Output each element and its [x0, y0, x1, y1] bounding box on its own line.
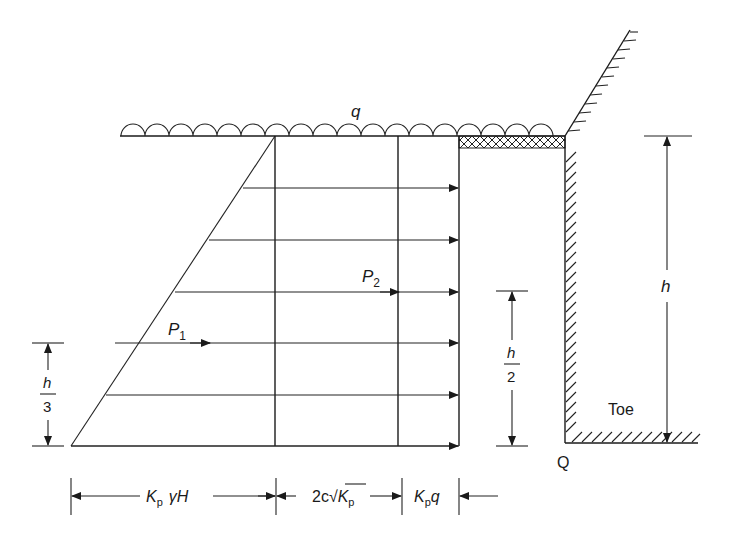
width-kp-gamma-h: KpγH	[146, 488, 189, 508]
point-q-label: Q	[557, 454, 569, 471]
pressure-distribution	[71, 136, 459, 446]
dimension-h-label: h	[661, 277, 670, 296]
p2-label: P2	[362, 267, 380, 290]
h-over-2-numerator: h	[507, 344, 515, 361]
passive-earth-pressure-diagram: q	[0, 0, 732, 540]
surcharge-load	[120, 124, 565, 136]
crosshatch-strip	[459, 136, 565, 148]
width-kp-q: Kpq	[414, 488, 440, 508]
p1-label: P1	[168, 320, 186, 343]
h-over-2-denominator: 2	[507, 368, 515, 385]
toe-label: Toe	[608, 401, 634, 418]
dimension-h-over-3	[32, 343, 64, 446]
h-over-3-denominator: 3	[43, 398, 51, 415]
toe-base-hatched	[565, 432, 700, 443]
h-over-3-numerator: h	[43, 374, 51, 391]
slope-ground	[565, 30, 638, 136]
wall-hatched	[565, 136, 576, 443]
surcharge-label: q	[351, 102, 361, 121]
pressure-arrows	[71, 188, 458, 446]
width-2c-sqrt-kp: 2c√Kp	[312, 488, 354, 508]
